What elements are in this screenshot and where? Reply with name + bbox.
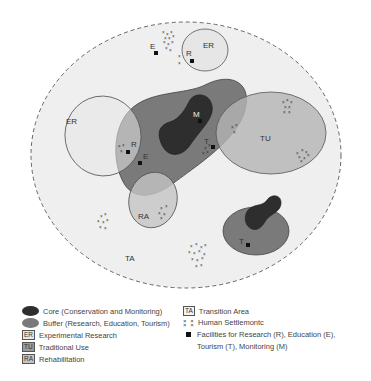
- tu-swatch-icon: TU: [22, 342, 35, 352]
- settlement-mark-icon: ×: [303, 156, 306, 161]
- settlement-mark-icon: ×: [171, 40, 174, 45]
- settlement-mark-icon: ×: [300, 159, 303, 164]
- settlement-mark-icon: ×: [178, 54, 181, 59]
- settlement-mark-icon: ×: [283, 110, 286, 115]
- settlement-mark-icon: ×: [165, 46, 168, 51]
- legend-ta: TA Transition Area: [183, 306, 249, 316]
- legend-er: ER Experimental Research: [22, 330, 117, 340]
- legend-facilities: Facilities for Research (R), Education (…: [183, 330, 335, 339]
- ta-swatch-icon: TA: [183, 306, 195, 316]
- settlement-mark-icon: ×: [99, 225, 102, 230]
- legend-settlement-label: Human Settlemontc: [198, 318, 264, 327]
- zone-label-er-top: ER: [203, 41, 214, 50]
- zone-label-ta: TA: [125, 254, 135, 263]
- settlement-mark-icon: ×: [307, 153, 310, 158]
- settlement-mark-icon: ×: [97, 219, 100, 224]
- settlement-mark-icon: ×: [104, 212, 107, 217]
- settlement-mark-icon: ×: [301, 148, 304, 153]
- settlement-mark-icon: ×: [191, 257, 194, 262]
- settlement-mark-icon: ×: [195, 242, 198, 247]
- settlement-mark-icon: ×: [196, 258, 199, 263]
- legend-ra: RA Rehabilitation: [22, 354, 84, 364]
- er-swatch-icon: ER: [22, 330, 35, 340]
- settlement-mark-icon: ×: [172, 34, 175, 39]
- settlement-mark-icon: ×: [208, 143, 211, 148]
- facility-icon: [186, 332, 191, 337]
- settlement-mark-icon: ×: [288, 110, 291, 115]
- svg-text:E: E: [143, 152, 148, 161]
- settlement-mark-icon: ×: [178, 61, 181, 66]
- settlement-mark-icon: ×: [201, 256, 204, 261]
- settlement-mark-icon: ×: [106, 218, 109, 223]
- zone-label-tu: TU: [260, 134, 271, 143]
- legend-tu-label: Traditional Use: [39, 343, 89, 352]
- legend-ta-label: Transition Area: [199, 307, 249, 316]
- legend-facilities-label-2: Tourism (T), Monitoring (M): [197, 342, 287, 351]
- zone-label-ra: RA: [138, 212, 150, 221]
- legend-settlement: × ×× × Human Settlemontc: [183, 318, 264, 327]
- legend-core-label: Core (Conservation and Monitoring): [43, 307, 162, 316]
- legend-buffer-label: Buffer (Research, Education, Tourism): [43, 319, 170, 328]
- settlement-mark-icon: ×: [286, 98, 289, 103]
- settlement-mark-icon: ×: [163, 40, 166, 45]
- svg-text:R: R: [186, 49, 192, 58]
- svg-text:E: E: [150, 42, 155, 51]
- settlement-mark-icon: ×: [193, 251, 196, 256]
- legend-tu: TU Traditional Use: [22, 342, 89, 352]
- svg-text:M: M: [193, 110, 200, 119]
- core-swatch-icon: [22, 306, 39, 316]
- settlement-mark-icon: ×: [104, 226, 107, 231]
- svg-text:R: R: [131, 140, 137, 149]
- settlement-mark-icon: ×: [120, 149, 123, 154]
- settlement-mark-icon: ×: [233, 130, 236, 135]
- svg-text:T: T: [239, 237, 244, 246]
- settlement-mark-icon: ×: [163, 212, 166, 217]
- settlement-mark-icon: ×: [100, 214, 103, 219]
- legend: Core (Conservation and Monitoring) Buffe…: [0, 300, 371, 381]
- settlement-mark-icon: ×: [122, 143, 125, 148]
- settlement-mark-icon: ×: [235, 123, 238, 128]
- buffer-swatch-icon: [22, 318, 39, 328]
- settlement-mark-icon: ×: [160, 216, 163, 221]
- settlement-mark-icon: ×: [204, 243, 207, 248]
- legend-er-label: Experimental Research: [39, 331, 117, 340]
- biosphere-zoning-diagram: ER ER TU RA TA E R M T R E T ×××××××××××…: [0, 0, 371, 300]
- settlement-mark-icon: ×: [200, 263, 203, 268]
- zone-label-er-left: ER: [66, 117, 77, 126]
- settlement-mark-icon: ×: [165, 204, 168, 209]
- legend-facilities-label-1: Facilities for Research (R), Education (…: [197, 330, 335, 339]
- ra-swatch-icon: RA: [22, 354, 35, 364]
- settlement-mark-icon: ×: [202, 151, 205, 156]
- settlement-icon: × ×× ×: [183, 319, 193, 327]
- settlement-mark-icon: ×: [198, 249, 201, 254]
- settlement-mark-icon: ×: [195, 264, 198, 269]
- legend-ra-label: Rehabilitation: [39, 355, 84, 364]
- settlement-mark-icon: ×: [162, 30, 165, 35]
- settlement-mark-icon: ×: [169, 48, 172, 53]
- settlement-mark-icon: ×: [190, 244, 193, 249]
- legend-buffer: Buffer (Research, Education, Tourism): [22, 318, 170, 328]
- settlement-mark-icon: ×: [102, 220, 105, 225]
- legend-core: Core (Conservation and Monitoring): [22, 306, 162, 316]
- settlement-mark-icon: ×: [206, 150, 209, 155]
- settlement-mark-icon: ×: [188, 250, 191, 255]
